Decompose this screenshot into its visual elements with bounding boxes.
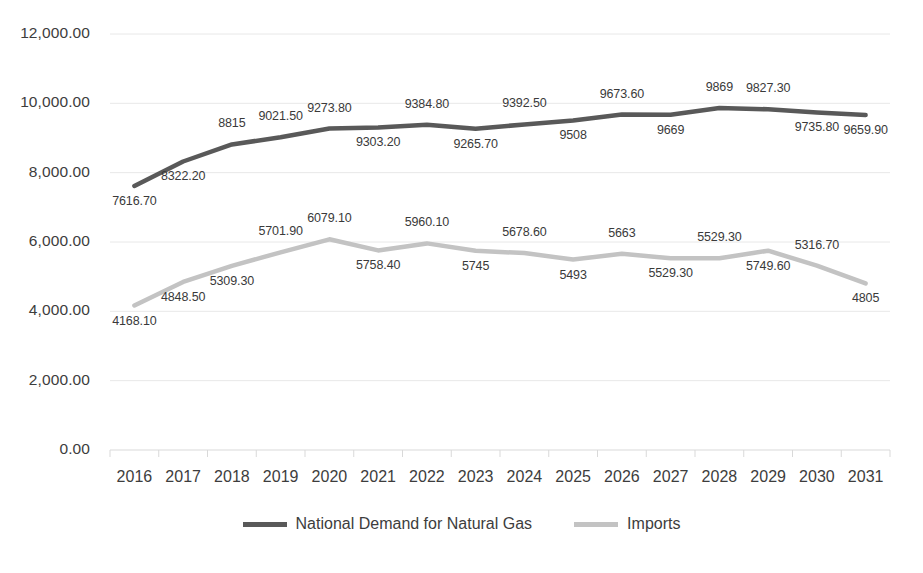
chart-container: 0.002,000.004,000.006,000.008,000.0010,0… bbox=[0, 0, 923, 573]
data-point-label: 5745 bbox=[462, 259, 489, 273]
data-point-label: 5960.10 bbox=[405, 215, 450, 229]
y-axis-tick-label: 10,000.00 bbox=[0, 93, 90, 111]
data-point-label: 5316.70 bbox=[795, 238, 840, 252]
chart-legend: National Demand for Natural Gas Imports bbox=[0, 515, 923, 533]
data-point-label: 5701.90 bbox=[258, 224, 303, 238]
y-axis-tick-label: 2,000.00 bbox=[0, 371, 90, 389]
data-point-label: 4805 bbox=[852, 291, 879, 305]
x-axis-tick-label: 2031 bbox=[836, 468, 896, 486]
data-point-label: 5663 bbox=[608, 226, 635, 240]
data-point-label: 5309.30 bbox=[210, 274, 255, 288]
data-point-label: 9508 bbox=[559, 128, 586, 142]
data-point-label: 5529.30 bbox=[648, 266, 693, 280]
data-point-label: 5529.30 bbox=[697, 230, 742, 244]
data-point-label: 6079.10 bbox=[307, 211, 352, 225]
data-point-label: 9735.80 bbox=[795, 120, 840, 134]
data-point-label: 9265.70 bbox=[453, 137, 498, 151]
data-point-label: 5749.60 bbox=[746, 259, 791, 273]
legend-item-demand[interactable]: National Demand for Natural Gas bbox=[243, 515, 533, 533]
x-tick-marks-group bbox=[110, 450, 890, 457]
gridlines-group bbox=[110, 34, 890, 450]
data-point-label: 5758.40 bbox=[356, 258, 401, 272]
data-point-label: 8815 bbox=[218, 116, 245, 130]
data-point-label: 9392.50 bbox=[502, 96, 547, 110]
data-point-label: 9303.20 bbox=[356, 135, 401, 149]
data-point-label: 9869 bbox=[706, 80, 733, 94]
data-point-label: 9384.80 bbox=[405, 97, 450, 111]
data-point-label: 9673.60 bbox=[600, 87, 645, 101]
y-axis-tick-label: 4,000.00 bbox=[0, 301, 90, 319]
data-point-label: 8322.20 bbox=[161, 169, 206, 183]
data-point-label: 9669 bbox=[657, 123, 684, 137]
y-axis-tick-label: 0.00 bbox=[0, 440, 90, 458]
legend-label-demand: National Demand for Natural Gas bbox=[296, 515, 533, 533]
data-point-label: 9827.30 bbox=[746, 81, 791, 95]
data-point-label: 4848.50 bbox=[161, 290, 206, 304]
data-point-label: 4168.10 bbox=[112, 314, 157, 328]
data-point-label: 7616.70 bbox=[112, 194, 157, 208]
legend-item-imports[interactable]: Imports bbox=[574, 515, 680, 533]
data-point-label: 9273.80 bbox=[307, 101, 352, 115]
data-point-label: 9659.90 bbox=[843, 123, 888, 137]
y-axis-tick-label: 8,000.00 bbox=[0, 163, 90, 181]
legend-swatch-imports-icon bbox=[574, 522, 618, 527]
y-axis-tick-label: 12,000.00 bbox=[0, 24, 90, 42]
legend-label-imports: Imports bbox=[627, 515, 680, 533]
data-point-label: 9021.50 bbox=[258, 109, 303, 123]
y-axis-tick-label: 6,000.00 bbox=[0, 232, 90, 250]
legend-swatch-demand-icon bbox=[243, 522, 287, 527]
data-point-label: 5678.60 bbox=[502, 225, 547, 239]
data-point-label: 5493 bbox=[559, 268, 586, 282]
